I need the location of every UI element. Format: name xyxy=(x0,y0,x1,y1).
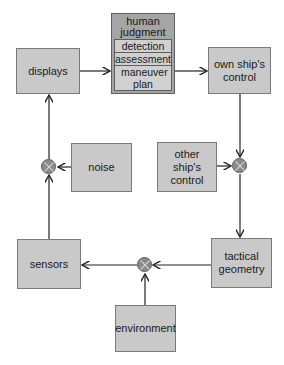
own-ship-control-label: own ship's control xyxy=(212,58,268,84)
noise-block: noise xyxy=(71,143,132,192)
maneuver-plan-label: maneuver plan xyxy=(121,66,165,90)
other-ship-control-block: other ship's control xyxy=(157,142,217,192)
detection-step: detection xyxy=(114,39,172,53)
environment-label: environment xyxy=(115,322,176,335)
tactical-geometry-block: tactical geometry xyxy=(211,238,272,288)
ship-control-summing-junction-icon xyxy=(232,158,247,173)
sensors-block: sensors xyxy=(17,239,81,289)
own-ship-control-block: own ship's control xyxy=(208,47,271,94)
noise-label: noise xyxy=(88,161,114,174)
tactical-geometry-label: tactical geometry xyxy=(217,250,267,276)
displays-block: displays xyxy=(16,48,80,94)
sensors-label: sensors xyxy=(30,258,69,271)
noise-summing-junction-icon xyxy=(41,159,56,174)
human-judgment-block: human judgment detection assessment mane… xyxy=(111,13,175,94)
human-judgment-title: human judgment xyxy=(114,14,172,39)
assessment-step: assessment xyxy=(114,53,172,66)
other-ship-control-label: other ship's control xyxy=(167,148,207,187)
environment-summing-junction-icon xyxy=(137,257,152,272)
displays-label: displays xyxy=(28,65,68,78)
maneuver-plan-step: maneuver plan xyxy=(114,66,172,91)
environment-block: environment xyxy=(115,305,176,352)
